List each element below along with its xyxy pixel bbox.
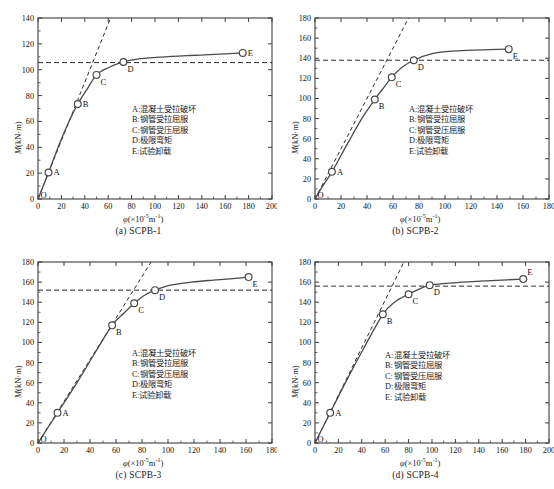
svg-text:20: 20 xyxy=(334,446,342,455)
legend-text: 混凝土受拉破坏 xyxy=(140,105,196,114)
svg-text:180: 180 xyxy=(543,202,554,211)
svg-text:40: 40 xyxy=(81,202,89,211)
legend-key: D: xyxy=(385,382,394,392)
data-point-marker xyxy=(45,169,52,176)
legend-item-D: D:极限弯矩 xyxy=(132,380,196,390)
x-axis-label-c: φ(×10-5m-1) xyxy=(123,457,163,468)
svg-text:20: 20 xyxy=(303,175,311,184)
data-point-label-e: E xyxy=(253,279,258,289)
legend-text: 钢管受压屈服 xyxy=(140,126,188,135)
legend-text: 极限弯矩 xyxy=(140,380,172,389)
svg-text:120: 120 xyxy=(449,446,461,455)
legend-item-C: C:钢管受压屈服 xyxy=(409,126,473,136)
data-point-marker xyxy=(426,282,433,289)
data-point-label-o: O xyxy=(318,190,324,200)
data-point-label-d: D xyxy=(434,287,440,297)
svg-text:120: 120 xyxy=(299,74,311,83)
legend-text: 钢管受压屈服 xyxy=(394,372,442,381)
svg-text:40: 40 xyxy=(358,446,366,455)
svg-text:20: 20 xyxy=(337,202,345,211)
svg-text:140: 140 xyxy=(473,446,485,455)
legend-text: 极限弯矩 xyxy=(417,136,449,145)
legend-item-E: E:试验卸载 xyxy=(132,147,196,157)
legend-text: 极限弯矩 xyxy=(140,136,172,145)
svg-text:160: 160 xyxy=(219,202,231,211)
svg-text:180: 180 xyxy=(242,202,254,211)
svg-text:120: 120 xyxy=(22,318,34,327)
svg-text:40: 40 xyxy=(363,202,371,211)
svg-text:120: 120 xyxy=(465,202,477,211)
svg-text:0: 0 xyxy=(36,446,40,455)
svg-text:200: 200 xyxy=(543,446,554,455)
legend-item-D: D:极限弯矩 xyxy=(409,136,473,146)
svg-text:160: 160 xyxy=(240,446,252,455)
data-point-marker xyxy=(152,287,159,294)
svg-text:80: 80 xyxy=(303,115,311,124)
y-axis-label-a: M(kN·m) xyxy=(13,121,23,154)
svg-text:60: 60 xyxy=(303,379,311,388)
legend-item-E: E:试验卸载 xyxy=(132,391,196,401)
data-point-marker xyxy=(371,96,378,103)
svg-text:120: 120 xyxy=(22,40,34,49)
legend-text: 试验卸载 xyxy=(139,391,171,400)
data-point-label-b: B xyxy=(387,316,393,326)
legend-item-C: C:钢管受压屈服 xyxy=(132,126,196,136)
legend-text: 钢管受拉屈服 xyxy=(140,115,188,124)
data-point-marker xyxy=(131,300,138,307)
data-point-marker xyxy=(327,409,334,416)
data-point-marker xyxy=(245,274,252,281)
legend-text: 混凝土受拉破坏 xyxy=(394,351,450,360)
data-point-marker xyxy=(388,74,395,81)
svg-text:160: 160 xyxy=(496,446,508,455)
data-point-marker xyxy=(329,168,336,175)
legend-item-D: D:极限弯矩 xyxy=(132,136,196,146)
data-point-marker xyxy=(410,57,417,64)
svg-text:60: 60 xyxy=(104,202,112,211)
data-point-label-c: C xyxy=(101,77,107,87)
svg-text:60: 60 xyxy=(26,379,34,388)
legend-key: E: xyxy=(385,393,394,403)
svg-text:0: 0 xyxy=(313,202,317,211)
legend-key: B: xyxy=(132,359,140,369)
data-point-label-c: C xyxy=(413,296,419,306)
data-point-label-c: C xyxy=(138,305,144,315)
legend-item-E: E:试验卸载 xyxy=(409,147,473,157)
legend-key: C: xyxy=(132,370,140,380)
legend-key: C: xyxy=(132,126,140,136)
legend-d: A:混凝土受拉破坏B:钢管受拉屈服C:钢管受压屈服D:极限弯矩E:试验卸载 xyxy=(385,351,450,403)
legend-key: B: xyxy=(132,115,140,125)
svg-text:80: 80 xyxy=(415,202,423,211)
legend-item-A: A:混凝土受拉破坏 xyxy=(132,105,196,115)
legend-key: C: xyxy=(385,372,394,382)
legend-item-D: D:极限弯矩 xyxy=(385,382,450,392)
svg-text:120: 120 xyxy=(172,202,184,211)
svg-text:40: 40 xyxy=(26,143,34,152)
data-point-marker xyxy=(379,311,386,318)
svg-text:0: 0 xyxy=(30,439,34,448)
legend-key: B: xyxy=(385,361,394,371)
data-point-marker xyxy=(93,71,100,78)
data-point-marker xyxy=(120,59,127,66)
x-axis-label-a: φ(×10-5m-1) xyxy=(123,213,163,224)
y-axis-label-b: M(kN·m) xyxy=(290,121,300,154)
svg-text:20: 20 xyxy=(26,169,34,178)
legend-item-C: C:钢管受压屈服 xyxy=(132,370,196,380)
x-axis-label-d: φ(×10-5m-1) xyxy=(400,457,440,468)
svg-text:140: 140 xyxy=(299,54,311,63)
legend-item-C: C:钢管受压屈服 xyxy=(385,372,450,382)
legend-key: C: xyxy=(409,126,417,136)
legend-text: 试验卸载 xyxy=(139,147,171,156)
data-point-label-b: B xyxy=(116,327,122,337)
svg-text:80: 80 xyxy=(128,202,136,211)
data-point-label-o: O xyxy=(318,434,324,444)
chart-panel-scpb-1: 0204060801001201401601802000204060801001… xyxy=(0,0,277,244)
legend-text: 钢管受拉屈服 xyxy=(140,359,188,368)
svg-text:120: 120 xyxy=(299,318,311,327)
svg-text:100: 100 xyxy=(22,66,34,75)
svg-text:0: 0 xyxy=(313,446,317,455)
svg-text:180: 180 xyxy=(299,258,311,267)
svg-text:60: 60 xyxy=(112,446,120,455)
svg-text:100: 100 xyxy=(299,94,311,103)
svg-text:100: 100 xyxy=(439,202,451,211)
svg-text:100: 100 xyxy=(299,338,311,347)
